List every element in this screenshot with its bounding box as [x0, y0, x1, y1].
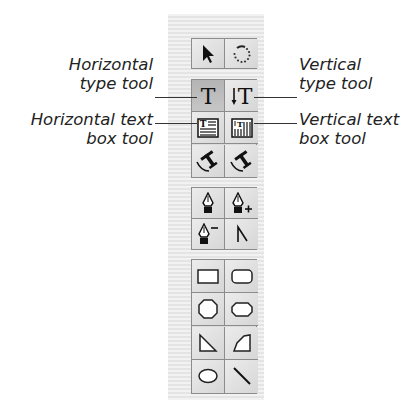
polygon-tool[interactable] [225, 327, 258, 360]
rectangle-tool[interactable] [192, 260, 225, 293]
line-icon [231, 365, 253, 387]
callout-line1: Horizontal text [31, 110, 153, 129]
dotted-rotate-icon [231, 43, 253, 65]
horizontal-type-tool[interactable]: T [192, 80, 225, 112]
callout-line2: box tool [299, 129, 399, 148]
svg-text:T: T [201, 85, 216, 107]
add-anchor-point-tool[interactable] [225, 188, 258, 219]
selection-tool[interactable] [192, 39, 225, 68]
pen-tool[interactable] [192, 188, 225, 219]
convert-point-icon [234, 224, 250, 244]
line-tool[interactable] [225, 360, 258, 393]
callout-vertical-type-tool: Vertical type tool [299, 55, 372, 93]
vertical-text-box-icon: T [231, 118, 253, 138]
arrow-pointer-icon [200, 44, 216, 64]
leader-line-horizontal-text-box [155, 123, 197, 124]
triangle-tool[interactable] [192, 327, 225, 360]
rounded-rectangle-icon [230, 267, 254, 285]
delete-anchor-point-tool[interactable] [192, 219, 225, 249]
beveled-rectangle-tool[interactable] [225, 293, 258, 326]
leader-line-horizontal-type [155, 97, 197, 98]
vertical-type-on-path-icon [229, 149, 255, 173]
beveled-rectangle-icon [230, 300, 254, 318]
horizontal-type-icon: T [197, 85, 219, 107]
horizontal-text-box-icon: T [197, 118, 219, 138]
callout-horizontal-text-box-tool: Horizontal text box tool [31, 110, 153, 148]
octagon-icon [197, 298, 219, 320]
pen-plus-icon [231, 192, 253, 214]
callout-horizontal-type-tool: Horizontal type tool [69, 55, 153, 93]
octagon-tool[interactable] [192, 293, 225, 326]
type-tools-group: T T T [191, 79, 257, 178]
callout-line1: Vertical text [299, 110, 399, 129]
vertical-type-tool[interactable]: T [225, 80, 258, 112]
selection-tools-group [191, 38, 257, 69]
shape-tools-group [191, 259, 257, 394]
horizontal-type-on-path-tool[interactable] [192, 145, 225, 177]
vertical-type-icon: T [230, 85, 254, 107]
rounded-rectangle-tool[interactable] [225, 260, 258, 293]
rectangle-icon [196, 267, 220, 285]
triangle-icon [197, 332, 219, 354]
vertical-text-box-tool[interactable]: T [225, 112, 258, 144]
callout-line1: Vertical [299, 55, 372, 74]
callout-line1: Horizontal [69, 55, 153, 74]
convert-direction-point-tool[interactable] [225, 219, 258, 249]
pen-minus-icon [197, 223, 219, 245]
pen-nib-icon [201, 192, 215, 214]
callout-vertical-text-box-tool: Vertical text box tool [299, 110, 399, 148]
polygon-icon [231, 332, 253, 354]
callout-line2: box tool [31, 129, 153, 148]
svg-text:T: T [237, 85, 252, 107]
rotate-tool[interactable] [225, 39, 258, 68]
type-on-path-icon [195, 149, 221, 173]
callout-line2: type tool [69, 74, 153, 93]
pen-tools-group [191, 187, 257, 250]
vertical-type-on-path-tool[interactable] [225, 145, 258, 177]
leader-line-vertical-text-box [254, 123, 297, 124]
callout-line2: type tool [299, 74, 372, 93]
ellipse-icon [196, 367, 220, 385]
horizontal-text-box-tool[interactable]: T [192, 112, 225, 144]
leader-line-vertical-type [254, 97, 297, 98]
svg-text:T: T [200, 119, 207, 129]
ellipse-tool[interactable] [192, 360, 225, 393]
svg-text:T: T [237, 119, 243, 129]
